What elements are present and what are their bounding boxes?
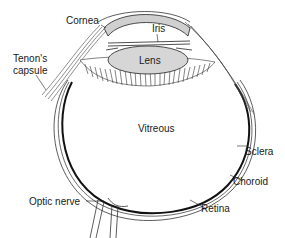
cornea bbox=[104, 15, 190, 37]
label-retina: Retina bbox=[201, 203, 230, 214]
retina-layer bbox=[62, 82, 249, 213]
label-choroid: Choroid bbox=[233, 176, 268, 187]
label-tenons-capsule-line1: Tenon's bbox=[13, 53, 47, 64]
label-optic-nerve: Optic nerve bbox=[29, 196, 81, 207]
label-cornea: Cornea bbox=[66, 15, 99, 26]
eye-diagram: Cornea Iris Lens Tenon's capsule Vitreou… bbox=[0, 0, 285, 238]
choroid-layer bbox=[58, 82, 252, 216]
label-tenons-capsule-line2: capsule bbox=[13, 65, 48, 76]
sclera-layer bbox=[54, 80, 256, 221]
label-vitreous: Vitreous bbox=[138, 123, 175, 134]
label-sclera: Sclera bbox=[245, 146, 274, 157]
label-iris: Iris bbox=[152, 23, 165, 34]
label-lens: Lens bbox=[139, 55, 161, 66]
